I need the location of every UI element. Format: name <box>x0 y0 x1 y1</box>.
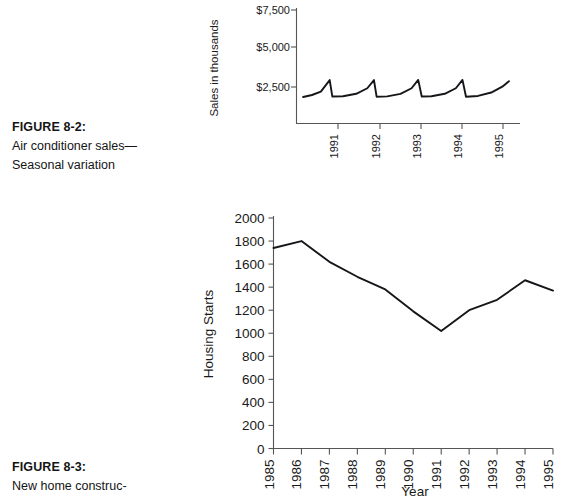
bottom-chart-ytick-2000: 2000 <box>234 211 264 226</box>
bottom-chart-data-line <box>274 241 554 331</box>
bottom-chart-ytick-1800: 1800 <box>234 234 264 249</box>
bottom-chart-ytick-1600: 1600 <box>234 257 264 272</box>
bottom-chart-x-ticks <box>274 449 554 455</box>
top-chart-xtick-1991: 1991 <box>328 134 340 158</box>
top-chart-xtick-1992: 1992 <box>370 134 382 158</box>
bottom-chart-ytick-600: 600 <box>242 372 265 387</box>
bottom-chart-xtick-1995: 1995 <box>541 460 556 490</box>
bottom-chart-xtick-1985: 1985 <box>262 460 277 490</box>
top-chart-ytick-5000: $5,000 <box>256 41 290 53</box>
top-chart-xtick-1995: 1995 <box>493 134 505 158</box>
figure-8-2-caption-line-2: Seasonal variation <box>12 156 197 175</box>
bottom-chart-y-tick-labels: 0200400600800100012001400160018002000 <box>234 211 264 457</box>
top-chart-data-line <box>303 80 509 97</box>
bottom-chart-y-ticks <box>269 218 274 449</box>
bottom-chart-xtick-1993: 1993 <box>485 460 500 490</box>
bottom-chart-xtick-1988: 1988 <box>345 460 360 490</box>
bottom-chart-xtick-1991: 1991 <box>429 460 444 490</box>
figure-8-3-caption-title: FIGURE 8-3: <box>12 458 197 477</box>
bottom-chart-ytick-800: 800 <box>242 349 265 364</box>
air-conditioner-sales-chart: Sales in thousands $7,500 $5,000 $2,500 … <box>200 0 540 190</box>
bottom-chart-ytick-0: 0 <box>257 442 265 457</box>
bottom-chart-xtick-1989: 1989 <box>373 460 388 490</box>
top-chart-x-tick-labels: 1991 1992 1993 1994 1995 <box>328 134 505 158</box>
bottom-chart-xtick-1992: 1992 <box>457 460 472 490</box>
top-chart-ylabel: Sales in thousands <box>208 19 220 116</box>
bottom-chart-ytick-200: 200 <box>242 418 265 433</box>
figure-8-3-caption-line-1: New home construc- <box>12 477 197 496</box>
bottom-chart-xtick-1994: 1994 <box>513 459 528 490</box>
bottom-chart-ytick-1400: 1400 <box>234 280 264 295</box>
top-chart-xtick-1994: 1994 <box>452 134 464 158</box>
figure-8-3-caption: FIGURE 8-3: New home construc- <box>12 458 197 496</box>
bottom-chart-ytick-1200: 1200 <box>234 303 264 318</box>
bottom-chart-xtick-1987: 1987 <box>317 460 332 490</box>
top-chart-y-axis-title: Sales in thousands <box>208 19 220 116</box>
top-chart-y-tick-labels: $7,500 $5,000 $2,500 <box>256 4 290 93</box>
top-chart-axes <box>297 8 521 124</box>
bottom-chart-y-axis-title: Housing Starts <box>201 289 216 378</box>
bottom-chart-ylabel: Housing Starts <box>201 289 216 378</box>
housing-starts-chart: Housing Starts 0200400600800100012001400… <box>190 200 561 501</box>
bottom-chart-xlabel: Year <box>401 484 429 499</box>
bottom-chart-xtick-1986: 1986 <box>289 460 304 490</box>
figure-8-2-caption-title: FIGURE 8-2: <box>12 118 197 137</box>
figure-8-2-caption: FIGURE 8-2: Air conditioner sales— Seaso… <box>12 118 197 175</box>
top-chart-ytick-7500: $7,500 <box>256 4 290 16</box>
top-chart-y-ticks <box>291 10 296 87</box>
bottom-chart-ytick-400: 400 <box>242 395 265 410</box>
figure-8-2-caption-line-1: Air conditioner sales— <box>12 137 197 156</box>
top-chart-xtick-1993: 1993 <box>411 134 423 158</box>
bottom-chart-ytick-1000: 1000 <box>234 326 264 341</box>
top-chart-x-ticks <box>338 124 503 130</box>
top-chart-ytick-2500: $2,500 <box>256 81 290 93</box>
